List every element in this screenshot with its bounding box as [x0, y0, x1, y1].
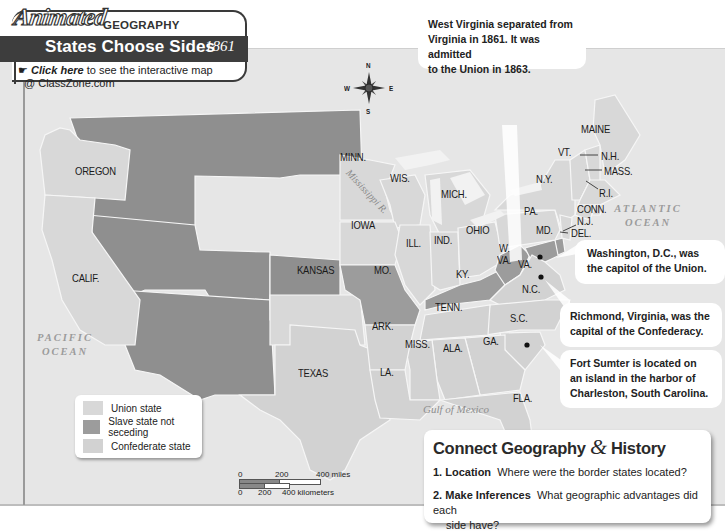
connect-title: Connect Geography & History [433, 434, 666, 460]
label-delaware: DEL. [571, 227, 591, 239]
label-arkansas: ARK. [372, 320, 393, 332]
nebraska-territory [270, 255, 340, 300]
interactive-map-link[interactable]: ☛ Click here to see the interactive map … [18, 64, 213, 90]
header-frame-left [14, 62, 16, 84]
scale-bar: 0 200 400 miles 0 200 400 kilometers [238, 470, 378, 500]
compass-e-label: E [389, 85, 393, 92]
gulf-of-mexico-label: Gulf of Mexico [423, 403, 489, 415]
label-michigan: MICH. [441, 188, 467, 200]
label-kansas: KANSAS [297, 264, 334, 276]
legend-item-border: Slave state not seceding [83, 420, 202, 434]
label-south-carolina: S.C. [510, 312, 528, 324]
compass-s-label: S [366, 108, 370, 115]
label-new-york: N.Y. [536, 173, 552, 185]
callout-washington-dc: Washington, D.C., wasthe capitol of the … [575, 240, 725, 284]
label-kentucky: KY. [456, 268, 469, 280]
label-maine: MAINE [581, 123, 610, 135]
label-alabama: ALA. [443, 342, 463, 354]
compass-n-label: N [366, 62, 370, 69]
fort-sumter-marker [524, 342, 529, 347]
label-connecticut: CONN. [577, 203, 607, 215]
western-territories-south [120, 290, 275, 400]
label-iowa: IOWA [351, 219, 375, 231]
legend-item-union: Union state [83, 401, 162, 415]
legend-item-confederate: Confederate state [83, 439, 191, 453]
label-indiana: IND. [434, 234, 452, 246]
callout-west-virginia: West Virginia separated fromVirginia in … [418, 11, 586, 69]
label-rhode-island: R.I. [599, 187, 613, 199]
lake-superior [395, 150, 450, 170]
connect-geography-history-box: Connect Geography & History 1. Location … [424, 430, 711, 523]
label-ohio: OHIO [466, 224, 489, 236]
label-pennsylvania: PA. [524, 205, 538, 217]
label-georgia: GA. [483, 335, 499, 347]
label-maryland: MD. [536, 224, 553, 236]
label-west-virginia-line1: W. [499, 242, 510, 254]
label-illinois: ILL. [406, 237, 421, 249]
label-california: CALIF. [72, 272, 99, 284]
label-louisiana: LA. [380, 366, 394, 378]
compass-rose-icon [353, 72, 385, 104]
compass-w-label: W [344, 85, 350, 92]
atlantic-ocean-label: ATLANTICOCEAN [608, 202, 688, 230]
label-wisconsin: WIS. [390, 172, 410, 184]
label-missouri: MO. [374, 264, 391, 276]
legend-swatch-confederate [83, 439, 103, 453]
callout-richmond: Richmond, Virginia, was thecapital of th… [560, 303, 722, 347]
label-north-carolina: N.C. [522, 283, 540, 295]
label-tennessee: TENN. [435, 301, 462, 313]
click-here-link[interactable]: Click here [31, 64, 84, 76]
classzone-site: @ ClassZone.com [24, 77, 115, 89]
callout-fort-sumter: Fort Sumter is located onan island in th… [560, 350, 722, 408]
question-2: 2. Make Inferences What geographic advan… [433, 488, 711, 532]
label-minnesota: MINN. [340, 151, 366, 163]
label-massachusetts: MASS. [604, 165, 633, 177]
category-label: GEOGRAPHY [103, 19, 180, 31]
label-oregon: OREGON [75, 165, 116, 177]
label-new-jersey: N.J. [577, 215, 593, 227]
dc-marker [537, 254, 542, 259]
question-1: 1. Location Where were the border states… [433, 465, 687, 480]
legend-swatch-union [83, 401, 103, 415]
label-florida: FLA. [513, 392, 532, 404]
richmond-marker [538, 274, 543, 279]
label-west-virginia-line2: VA. [497, 254, 511, 266]
label-new-hampshire: N.H. [601, 150, 619, 162]
label-texas: TEXAS [298, 367, 328, 379]
label-mississippi: MISS. [405, 338, 430, 350]
page-title-year: 1861 [205, 38, 235, 55]
label-virginia: VA. [518, 258, 532, 270]
label-vermont: VT. [558, 146, 571, 158]
pointer-hand-icon: ☛ [18, 64, 28, 76]
map-legend: Union state Slave state not seceding Con… [75, 395, 202, 458]
pacific-ocean-label: PACIFICOCEAN [30, 331, 100, 359]
animated-badge: Animated [12, 4, 108, 31]
legend-swatch-border [83, 420, 100, 434]
page-title: States Choose Sides [45, 37, 215, 57]
